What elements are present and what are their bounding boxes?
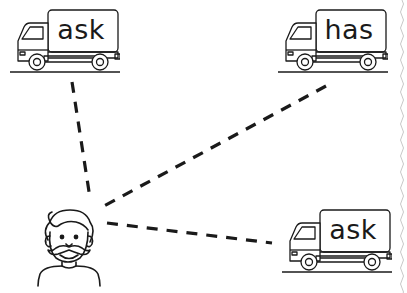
man-with-mustache-icon <box>20 200 110 290</box>
bearded-man[interactable] <box>20 200 110 290</box>
connector-truck-top-left <box>72 82 90 198</box>
page-edge-divider <box>397 0 407 293</box>
truck-top-right[interactable]: has <box>276 6 388 74</box>
truck-label: ask <box>46 10 116 48</box>
truck-label: ask <box>318 210 388 248</box>
truck-label: has <box>314 10 384 48</box>
matching-worksheet: ask has <box>0 0 407 293</box>
connector-truck-top-right <box>102 86 326 207</box>
truck-top-left[interactable]: ask <box>8 6 120 74</box>
connector-truck-bottom-right <box>107 223 272 243</box>
truck-bottom-right[interactable]: ask <box>280 206 392 274</box>
